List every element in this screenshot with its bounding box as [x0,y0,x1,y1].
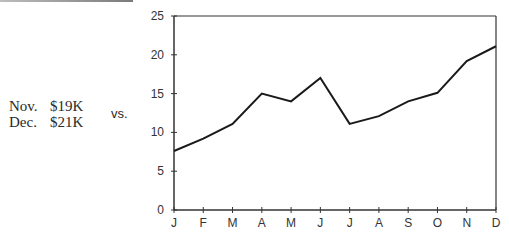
y-tick-label: 10 [151,125,165,139]
line-chart: 0510152025JFMAMJJASOND [0,0,509,239]
y-tick-label: 25 [151,9,165,23]
y-tick-label: 0 [157,203,164,217]
x-tick-label: A [375,216,383,230]
x-tick-label: N [462,216,471,230]
data-line [174,46,496,151]
x-tick-label: M [286,216,296,230]
x-tick-label: O [433,216,442,230]
x-tick-label: S [404,216,412,230]
y-tick-label: 5 [157,164,164,178]
x-tick-label: A [258,216,266,230]
x-tick-label: J [347,216,353,230]
x-tick-label: D [492,216,501,230]
y-tick-label: 15 [151,87,165,101]
x-tick-label: F [200,216,207,230]
x-tick-label: M [228,216,238,230]
x-tick-label: J [171,216,177,230]
x-tick-label: J [317,216,323,230]
y-tick-label: 20 [151,48,165,62]
